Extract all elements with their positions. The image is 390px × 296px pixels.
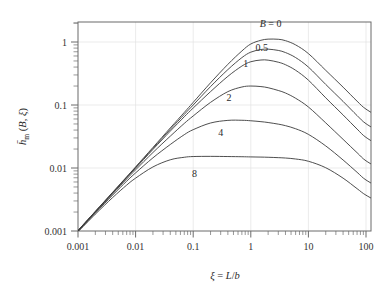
y-tick-label: 0.001 [45, 226, 68, 237]
y-tick-label: 0.01 [50, 163, 68, 174]
curve-label-b-0: B = 0 [260, 18, 282, 29]
x-axis-title: ξ = L/b [210, 270, 240, 282]
y-tick-label: 0.1 [55, 100, 68, 111]
x-tick-label: 0.1 [187, 241, 200, 252]
x-tick-label: 100 [359, 241, 374, 252]
x-tick-label: 0.01 [127, 241, 145, 252]
x-tick-label: 0.001 [67, 241, 90, 252]
curve-label-b-8: 8 [192, 168, 197, 179]
curve-label-b-0-5: 0.5 [256, 42, 269, 53]
curve-label-b-1: 1 [243, 58, 248, 69]
x-axis-title-text: ξ = L/b [210, 270, 240, 282]
y-tick-label: 1 [62, 37, 67, 48]
figure-container: 0.0010.010.1110100 0.0010.010.11 B = 00.… [0, 0, 390, 296]
chart-canvas: 0.0010.010.1110100 0.0010.010.11 B = 00.… [0, 0, 390, 296]
x-tick-label: 10 [303, 241, 313, 252]
curve-label-b-2: 2 [227, 92, 232, 103]
curve-label-b-4: 4 [218, 127, 223, 138]
x-tick-label: 1 [248, 241, 253, 252]
